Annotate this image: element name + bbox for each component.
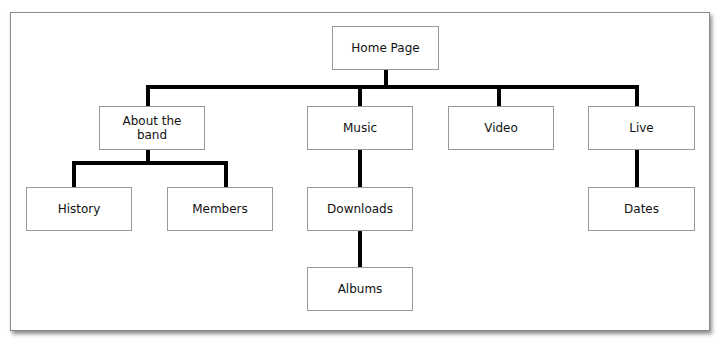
node-label: History <box>58 202 101 216</box>
node-label: Music <box>343 121 377 135</box>
node-members[interactable]: Members <box>167 187 273 231</box>
node-live[interactable]: Live <box>588 106 695 150</box>
node-label: Home Page <box>351 41 419 55</box>
node-albums[interactable]: Albums <box>307 267 413 311</box>
node-label: Video <box>484 121 518 135</box>
node-label: Live <box>629 121 654 135</box>
node-label: Downloads <box>327 202 393 216</box>
node-video[interactable]: Video <box>448 106 554 150</box>
node-music[interactable]: Music <box>307 106 413 150</box>
node-label: Albums <box>338 282 383 296</box>
node-label: Members <box>192 202 248 216</box>
node-about-the-band[interactable]: About the band <box>99 106 205 150</box>
node-downloads[interactable]: Downloads <box>307 187 413 231</box>
node-label: Dates <box>624 202 659 216</box>
node-dates[interactable]: Dates <box>588 187 695 231</box>
node-history[interactable]: History <box>26 187 132 231</box>
node-home-page[interactable]: Home Page <box>332 26 439 70</box>
node-label: About the band <box>117 114 187 142</box>
